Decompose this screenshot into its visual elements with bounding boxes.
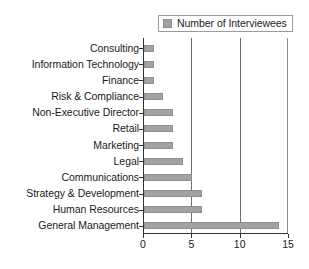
y-axis-category-label: Human Resources — [53, 202, 139, 218]
y-axis-tick — [139, 177, 143, 178]
chart-legend: Number of Interviewees — [158, 15, 293, 32]
bar-row — [143, 169, 288, 185]
bar — [144, 61, 154, 68]
bar — [144, 93, 163, 100]
y-axis-category-label: Information Technology — [32, 56, 139, 72]
bar-chart: Number of Interviewees ConsultingInforma… — [0, 0, 309, 269]
y-axis-tick — [139, 129, 143, 130]
x-axis-line — [143, 233, 288, 234]
bar — [144, 158, 183, 165]
y-axis-category-label: Strategy & Development — [26, 186, 139, 202]
y-axis-category-label: Retail — [112, 121, 139, 137]
x-axis-tick-label: 0 — [140, 238, 146, 250]
bar-row — [143, 56, 288, 72]
bar-row — [143, 40, 288, 56]
bar-row — [143, 121, 288, 137]
y-axis-tick — [139, 161, 143, 162]
bar-row — [143, 202, 288, 218]
y-axis-category-label: Non-Executive Director — [32, 105, 139, 121]
bar-rows — [143, 40, 288, 234]
bar-row — [143, 137, 288, 153]
bar — [144, 77, 154, 84]
bar-row — [143, 186, 288, 202]
y-axis-tick — [139, 194, 143, 195]
y-axis-category-labels: ConsultingInformation TechnologyFinanceR… — [0, 40, 139, 234]
y-axis-category-label: Legal — [114, 153, 139, 169]
y-axis-category-label: Marketing — [93, 137, 139, 153]
y-axis-tick — [139, 145, 143, 146]
legend-label: Number of Interviewees — [177, 18, 287, 29]
y-axis-tick — [139, 48, 143, 49]
bar — [144, 206, 202, 213]
bar — [144, 125, 173, 132]
y-axis-category-label: Consulting — [90, 40, 139, 56]
y-axis-tick — [139, 226, 143, 227]
plot-area — [143, 40, 288, 234]
y-axis-tick — [139, 210, 143, 211]
bar-row — [143, 72, 288, 88]
bar-row — [143, 105, 288, 121]
bar — [144, 109, 173, 116]
y-axis-tick — [139, 80, 143, 81]
x-axis-tick-label: 5 — [188, 238, 194, 250]
y-axis-category-label: General Management — [38, 218, 139, 234]
legend-swatch-icon — [163, 19, 172, 28]
bar — [144, 142, 173, 149]
x-axis-tick-labels: 051015 — [143, 236, 288, 252]
y-axis-tick — [139, 113, 143, 114]
y-axis-category-label: Risk & Compliance — [51, 89, 139, 105]
y-axis-tick — [139, 97, 143, 98]
bar — [144, 222, 279, 229]
bar — [144, 45, 154, 52]
bar-row — [143, 153, 288, 169]
y-axis-category-label: Finance — [102, 72, 139, 88]
bar-row — [143, 89, 288, 105]
bar-row — [143, 218, 288, 234]
bar — [144, 190, 202, 197]
y-axis-category-label: Communications — [62, 169, 140, 185]
x-axis-tick-label: 15 — [282, 238, 294, 250]
x-axis-tick-label: 10 — [234, 238, 246, 250]
y-axis-tick — [139, 64, 143, 65]
bar — [144, 174, 192, 181]
